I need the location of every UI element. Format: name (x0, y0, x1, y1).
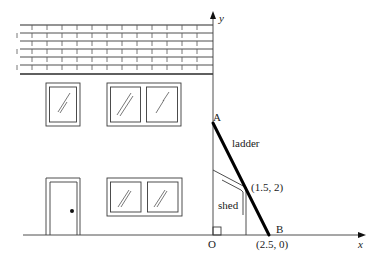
x-axis-label: x (357, 238, 363, 250)
origin-label: O (208, 238, 216, 250)
door-knob (70, 209, 74, 213)
point-a-label: A (213, 111, 221, 123)
x-axis (23, 232, 366, 238)
upper-right-window (107, 83, 181, 126)
diagram-canvas: y x O A ladder (1.5, 2) shed B (2.5, 0) (0, 0, 385, 263)
diagram-svg: y x O A ladder (1.5, 2) shed B (2.5, 0) (0, 0, 385, 263)
y-axis-label: y (218, 12, 224, 24)
upper-left-window (46, 83, 80, 126)
shed-corner-coord-label: (1.5, 2) (251, 181, 283, 194)
shed-label: shed (218, 199, 239, 211)
right-angle-marker (213, 227, 221, 235)
ladder-label: ladder (232, 137, 260, 149)
y-axis-arrow-icon (210, 11, 216, 19)
point-b-coord-label: (2.5, 0) (256, 238, 288, 251)
roof (17, 25, 213, 74)
lower-window (107, 178, 182, 216)
point-b-label: B (276, 223, 283, 235)
door (46, 178, 80, 235)
